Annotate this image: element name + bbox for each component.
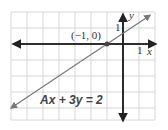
y-axis-label: y bbox=[128, 9, 134, 21]
x-unit-label: 1 bbox=[137, 44, 143, 56]
point-marker bbox=[105, 42, 110, 47]
y-unit-label: 1 bbox=[115, 21, 121, 33]
x-axis-label: x bbox=[146, 45, 152, 57]
point-label: (−1, 0) bbox=[71, 29, 101, 42]
equation-label: Ax + 3y = 2 bbox=[39, 93, 103, 107]
coordinate-graph: (−1, 0) 1 1 x y Ax + 3y = 2 bbox=[0, 0, 168, 130]
